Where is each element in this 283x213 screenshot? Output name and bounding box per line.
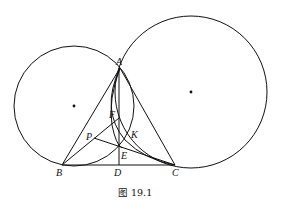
right-center-dot [190, 91, 193, 94]
left-center-dot [73, 105, 76, 108]
label-k: K [130, 129, 139, 140]
label-a: A [115, 56, 123, 67]
label-e: E [120, 150, 127, 161]
label-f: F [108, 109, 116, 120]
label-c: C [172, 167, 179, 178]
label-b: B [56, 167, 62, 178]
side-ac [120, 68, 175, 165]
figure-caption: 图 19.1 [118, 187, 152, 198]
label-d: D [113, 167, 122, 178]
geometry-figure: A B C D E F K P 图 19.1 [0, 0, 283, 213]
segment-pc [94, 138, 175, 165]
label-p: P [85, 131, 92, 142]
